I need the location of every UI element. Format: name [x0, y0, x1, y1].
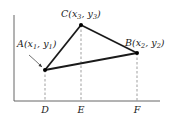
label-a-name: A — [17, 38, 24, 49]
label-b-xsub: 2 — [141, 42, 145, 50]
label-point-b: B(x2, y2) — [125, 38, 164, 50]
label-point-c: C(x3, y3) — [61, 9, 101, 21]
label-point-a: A(x1, y1) — [17, 39, 56, 51]
label-b-name: B — [125, 37, 132, 48]
label-c-name: C — [61, 8, 68, 19]
vertex-a-dot — [43, 68, 47, 72]
vertex-b-dot — [135, 51, 139, 55]
label-a-xsub: 1 — [33, 43, 37, 51]
vertex-c-dot — [79, 23, 83, 27]
label-b-ysub: 2 — [157, 42, 161, 50]
axis-label-f: F — [134, 105, 141, 115]
axis-label-d: D — [41, 105, 49, 115]
label-a-ysub: 1 — [49, 43, 53, 51]
axis-label-e: E — [78, 105, 85, 115]
label-c-ysub: 3 — [93, 13, 97, 21]
label-c-xsub: 3 — [77, 13, 81, 21]
side-ab — [45, 53, 137, 70]
